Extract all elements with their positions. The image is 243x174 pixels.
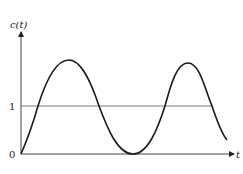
response-curve bbox=[21, 60, 227, 154]
tick-label-zero: 0 bbox=[9, 149, 15, 160]
response-chart: c(t) t 0 1 bbox=[0, 0, 243, 174]
tick-label-one: 1 bbox=[9, 101, 15, 112]
x-axis-label: t bbox=[236, 149, 241, 160]
y-axis-label: c(t) bbox=[10, 19, 28, 30]
